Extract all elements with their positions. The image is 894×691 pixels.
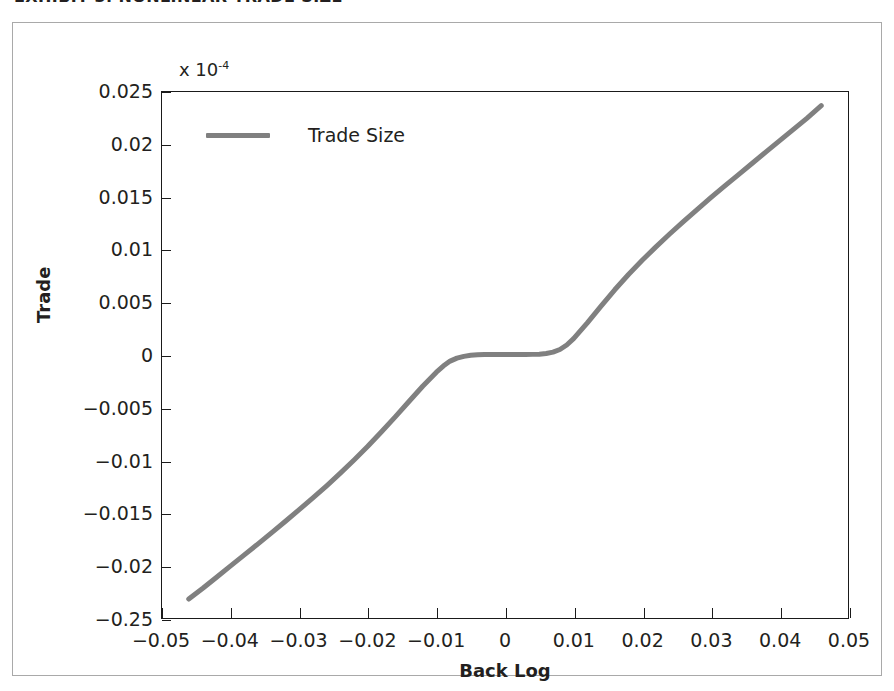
plot-area: Trade Size [161, 91, 849, 619]
chart-legend: Trade Size [206, 124, 405, 146]
y-axis-tick-label: 0.01 [111, 238, 153, 260]
x-axis-tick-mark [712, 608, 713, 618]
y-axis-tick-mark [162, 303, 171, 304]
y-axis-tick-label: 0.02 [111, 133, 153, 155]
y-axis-tick-label: 0 [141, 344, 153, 366]
y-axis-tick-labels: 0.0250.020.0150.010.0050−0.005−0.01−0.01… [71, 91, 153, 619]
x-axis-tick-mark [300, 608, 301, 618]
x-axis-tick-label: −0.05 [132, 629, 190, 651]
y-axis-tick-label: −0.25 [95, 608, 153, 630]
y-axis-multiplier-exponent: -4 [218, 59, 229, 72]
x-axis-tick-label: −0.02 [338, 629, 396, 651]
legend-swatch-trade-size [206, 133, 270, 138]
y-axis-tick-mark [162, 356, 171, 357]
y-axis-multiplier-prefix: x 10 [179, 59, 218, 80]
x-axis-title: Back Log [161, 660, 849, 681]
y-axis-tick-mark [162, 409, 171, 410]
x-axis-tick-mark [781, 608, 782, 618]
exhibit-caption-strip: EXHIBIT 3. NONLINEAR TRADE SIZE [0, 0, 894, 13]
x-axis-tick-label: −0.03 [269, 629, 327, 651]
legend-label-trade-size: Trade Size [308, 124, 405, 146]
y-axis-multiplier-label: x 10-4 [179, 59, 229, 80]
x-axis-tick-label: 0 [499, 629, 511, 651]
x-axis-tick-mark [850, 608, 851, 618]
x-axis-tick-mark [575, 608, 576, 618]
y-axis-tick-label: −0.005 [83, 397, 153, 419]
exhibit-caption-text: EXHIBIT 3. NONLINEAR TRADE SIZE [14, 0, 343, 6]
x-axis-tick-label: 0.01 [553, 629, 595, 651]
x-axis-tick-mark [231, 608, 232, 618]
x-axis-tick-label: −0.04 [201, 629, 259, 651]
x-axis-tick-mark [644, 608, 645, 618]
y-axis-tick-mark [162, 250, 171, 251]
y-axis-tick-mark [162, 92, 171, 93]
x-axis-tick-label: 0.04 [759, 629, 801, 651]
y-axis-tick-label: −0.01 [95, 450, 153, 472]
series-trade-size-line [189, 106, 821, 599]
x-axis-tick-mark [162, 608, 163, 618]
chart-curve-svg [162, 92, 848, 618]
x-axis-tick-mark [437, 608, 438, 618]
y-axis-title: Trade [33, 267, 54, 323]
y-axis-tick-mark [162, 620, 171, 621]
y-axis-tick-label: 0.005 [99, 291, 153, 313]
x-axis-tick-labels: −0.05−0.04−0.03−0.02−0.0100.010.020.030.… [161, 629, 849, 655]
y-axis-tick-label: −0.015 [83, 502, 153, 524]
y-axis-tick-mark [162, 567, 171, 568]
y-axis-tick-label: 0.025 [99, 80, 153, 102]
figure-frame: x 10-4 Trade 0.0250.020.0150.010.0050−0.… [12, 22, 882, 676]
x-axis-tick-label: 0.02 [621, 629, 663, 651]
y-axis-tick-mark [162, 514, 171, 515]
x-axis-tick-label: 0.03 [690, 629, 732, 651]
x-axis-tick-mark [368, 608, 369, 618]
x-axis-tick-label: 0.05 [828, 629, 870, 651]
y-axis-tick-label: 0.015 [99, 186, 153, 208]
x-axis-tick-mark [506, 608, 507, 618]
y-axis-tick-mark [162, 198, 171, 199]
x-axis-tick-label: −0.01 [407, 629, 465, 651]
y-axis-tick-label: −0.02 [95, 555, 153, 577]
y-axis-tick-mark [162, 145, 171, 146]
y-axis-tick-mark [162, 462, 171, 463]
